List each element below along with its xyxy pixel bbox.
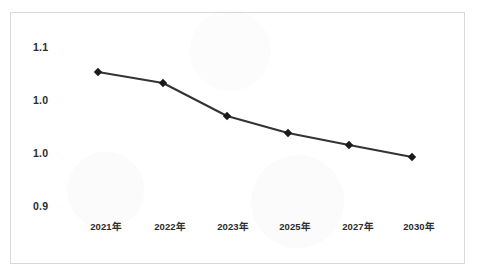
x-axis-tick-label: 2023年 <box>217 219 249 233</box>
y-axis-tick-label: 1.0 <box>33 94 48 106</box>
y-axis-tick-label: 0.9 <box>33 200 48 212</box>
y-axis-tick-label: 1.0 <box>33 147 48 159</box>
data-point-marker <box>408 153 416 161</box>
series-markers <box>94 68 416 161</box>
data-point-marker <box>345 141 353 149</box>
data-point-marker <box>223 112 231 120</box>
x-axis-tick-label: 2030年 <box>403 219 435 233</box>
y-axis-tick-label: 1.1 <box>33 41 48 53</box>
x-axis-tick-label: 2021年 <box>90 219 122 233</box>
data-point-marker <box>159 79 167 87</box>
x-axis-tick-label: 2025年 <box>279 219 311 233</box>
series-line <box>98 72 412 157</box>
plot-area <box>0 0 480 280</box>
data-point-marker <box>94 68 102 76</box>
x-axis-tick-label: 2027年 <box>342 219 374 233</box>
data-point-marker <box>284 129 292 137</box>
x-axis-tick-label: 2022年 <box>154 219 186 233</box>
line-chart: 1.11.01.00.9 2021年2022年2023年2025年2027年20… <box>0 0 480 280</box>
